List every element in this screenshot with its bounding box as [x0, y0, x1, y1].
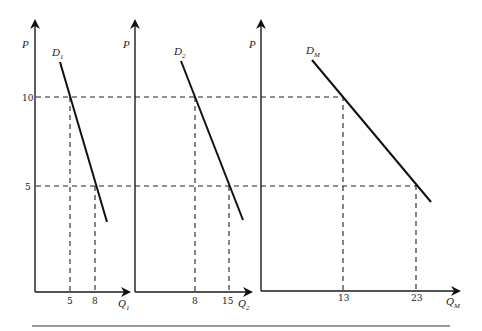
tick-qm-13: 13 [338, 293, 350, 303]
panel-consumer-2: P D2 8 15 Q2 [122, 22, 250, 312]
tick-qm-23: 23 [411, 293, 423, 303]
demand-curve-d2 [181, 61, 243, 220]
tick-q2-8: 8 [192, 296, 198, 306]
tick-q1-5: 5 [67, 296, 73, 306]
q2-axis-label: Q2 [238, 297, 250, 312]
d2-label: D2 [173, 45, 186, 60]
p-axis-label-1: P [21, 38, 29, 50]
panel-consumer-1: P D1 10 5 5 8 Q1 [21, 22, 129, 312]
p-axis-label-2: P [122, 38, 130, 50]
tick-p-10: 10 [22, 93, 34, 103]
dm-label: DM [305, 44, 321, 59]
demand-curve-dm [312, 60, 431, 202]
p-axis-label-market: P [248, 38, 256, 50]
panel-market: P DM 13 23 QM [248, 22, 461, 310]
demand-summation-chart: P D1 10 5 5 8 Q1 P D2 8 15 Q2 P DM 13 23… [0, 0, 482, 331]
d1-label: D1 [51, 46, 63, 61]
demand-curve-d1 [60, 62, 107, 222]
q1-axis-label: Q1 [118, 297, 129, 312]
tick-p-5: 5 [25, 182, 31, 192]
tick-q1-8: 8 [92, 296, 98, 306]
tick-q2-15: 15 [222, 296, 234, 306]
qm-axis-label: QM [446, 295, 461, 310]
